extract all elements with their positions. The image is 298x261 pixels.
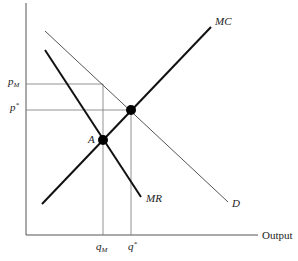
demand-curve [45, 31, 228, 202]
qm-label: qM [96, 241, 107, 254]
qm-sub: M [102, 246, 108, 254]
point-a-label: A [88, 134, 95, 145]
pstar-label: p* [10, 102, 19, 113]
qstar-sup: * [134, 240, 138, 248]
pstar-sup: * [16, 101, 20, 109]
qstar-label: q* [128, 241, 137, 252]
mc-curve [42, 27, 211, 204]
mr-curve [45, 50, 141, 197]
competitive-equilibrium-point [126, 105, 136, 115]
mr-label: MR [146, 193, 162, 204]
pm-sub: M [14, 81, 20, 89]
demand-label: D [232, 198, 240, 209]
monopoly-diagram [0, 0, 298, 261]
x-axis-label: Output [262, 230, 293, 241]
pm-label: pM [8, 76, 19, 89]
point-a [98, 135, 108, 145]
mc-label: MC [215, 16, 232, 27]
